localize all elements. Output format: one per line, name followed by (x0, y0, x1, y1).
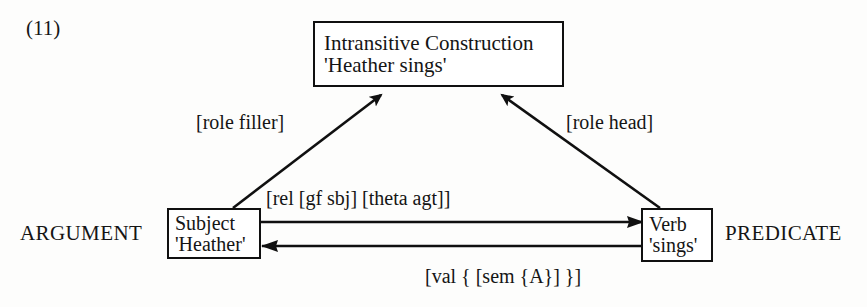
node-intransitive-construction: Intransitive Construction 'Heather sings… (313, 21, 564, 87)
edge-label-role-head: [role head] (566, 111, 653, 134)
label-predicate: PREDICATE (725, 221, 842, 246)
node-subject-line1: Subject (175, 213, 253, 234)
node-construction-line1: Intransitive Construction (324, 33, 553, 55)
figure-container: (11) Intransitive Construction 'Heather … (0, 0, 867, 307)
edge-label-relation: [rel [gf sbj] [theta agt]] (266, 187, 450, 210)
edge-label-valence: [val { [sem {A}] }] (425, 265, 581, 288)
node-verb-line2: 'sings' (649, 235, 705, 256)
node-verb-line1: Verb (649, 214, 705, 235)
example-number: (11) (26, 16, 60, 41)
node-verb: Verb 'sings' (641, 208, 713, 262)
label-argument: ARGUMENT (20, 221, 142, 246)
node-subject: Subject 'Heather' (167, 208, 261, 259)
node-subject-line2: 'Heather' (175, 234, 253, 255)
edge-label-role-filler: [role filler] (196, 111, 284, 134)
node-construction-line2: 'Heather sings' (324, 55, 553, 77)
